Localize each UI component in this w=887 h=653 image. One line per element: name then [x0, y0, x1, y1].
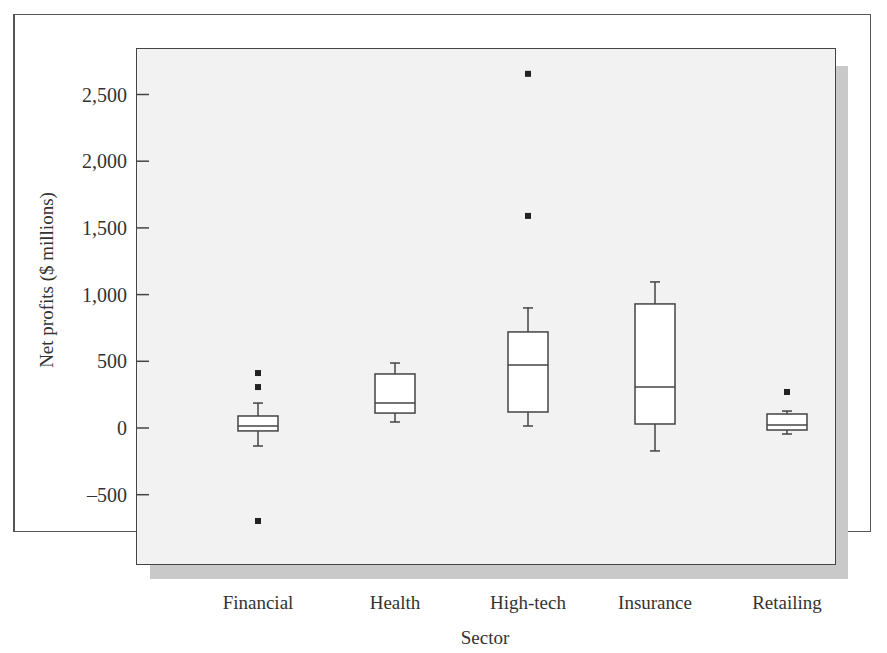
x-tick-label-high-tech: High-tech: [490, 592, 566, 614]
y-tick-label: 0: [117, 418, 127, 438]
y-tick-label: 500: [97, 351, 127, 371]
iqr-box: [238, 416, 278, 431]
y-axis-label: Net profits ($ millions): [36, 192, 58, 368]
outlier-point: [784, 389, 790, 395]
x-tick-label-retailing: Retailing: [752, 592, 822, 614]
box-high-tech: [508, 71, 548, 426]
boxes: [238, 71, 807, 524]
box-health: [375, 363, 415, 422]
box-financial: [238, 370, 278, 524]
outlier-point: [255, 384, 261, 390]
box-retailing: [767, 389, 807, 434]
y-tick-label: 2,500: [82, 85, 127, 105]
outlier-point: [255, 370, 261, 376]
iqr-box: [767, 414, 807, 430]
iqr-box: [635, 304, 675, 424]
outlier-point: [525, 213, 531, 219]
outlier-point: [255, 518, 261, 524]
x-tick-label-financial: Financial: [223, 592, 294, 614]
y-tick-label: 1,500: [82, 218, 127, 238]
box-plot-svg: [0, 0, 887, 653]
iqr-box: [375, 374, 415, 413]
y-tick-label: 1,000: [82, 285, 127, 305]
iqr-box: [508, 332, 548, 412]
x-tick-label-health: Health: [370, 592, 421, 614]
x-axis-label: Sector: [461, 627, 510, 649]
y-tick-label: –500: [87, 485, 127, 505]
y-axis-ticks: [137, 95, 149, 495]
y-tick-label: 2,000: [82, 151, 127, 171]
x-tick-label-insurance: Insurance: [618, 592, 692, 614]
box-insurance: [635, 282, 675, 451]
outlier-point: [525, 71, 531, 77]
